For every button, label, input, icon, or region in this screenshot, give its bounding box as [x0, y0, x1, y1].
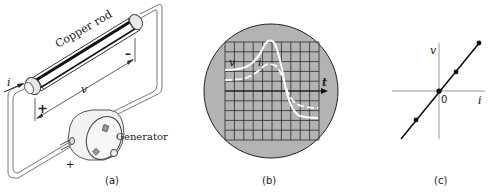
i-trace-label: i — [258, 56, 262, 69]
minus-sign-rod: – — [125, 47, 131, 61]
data-point — [477, 41, 482, 46]
plus-sign-rod: + — [37, 101, 48, 116]
caption-c: (c) — [434, 175, 447, 186]
voltage-label: v — [81, 83, 88, 96]
origin-label: 0 — [441, 94, 447, 105]
caption-a: (a) — [105, 175, 119, 186]
panel-b-oscilloscope: t v i (b) — [204, 24, 338, 186]
panel-c-vi-plot: v i 0 (c) — [392, 41, 485, 186]
caption-b: (b) — [262, 175, 276, 186]
panel-a-circuit: Copper rod i + – v Generator — [4, 4, 168, 186]
data-point-origin — [436, 88, 441, 93]
v-trace-label: v — [229, 56, 236, 69]
generator-label: Generator — [116, 131, 168, 142]
i-axis-label: i — [478, 94, 482, 107]
current-label: i — [7, 76, 11, 89]
v-axis-label: v — [430, 44, 437, 57]
plus-sign-generator: + — [66, 159, 74, 170]
figure: Copper rod i + – v Generator — [0, 0, 492, 194]
t-label: t — [322, 76, 327, 89]
data-point — [454, 70, 459, 75]
data-point — [414, 118, 419, 123]
